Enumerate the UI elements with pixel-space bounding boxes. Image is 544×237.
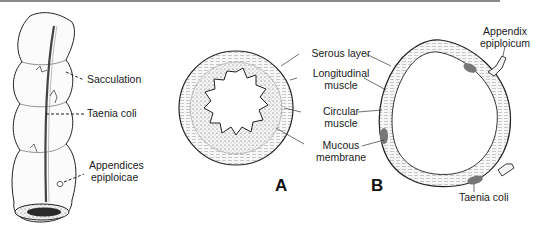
label-circular-1: Circular bbox=[299, 106, 383, 118]
cross-section-b bbox=[379, 40, 514, 187]
panel-label-a: A bbox=[275, 176, 287, 196]
colon-drawing bbox=[12, 13, 76, 222]
label-mucous-1: Mucous bbox=[299, 140, 383, 152]
label-appendix-1: Appendix bbox=[470, 26, 540, 38]
label-longitudinal-1: Longitudinal bbox=[299, 68, 383, 80]
label-appendices-1: Appendices bbox=[89, 160, 144, 172]
label-taenia-coli: Taenia coli bbox=[87, 108, 137, 120]
label-longitudinal-2: muscle bbox=[299, 80, 383, 92]
label-taenia-coli-b: Taenia coli bbox=[459, 192, 509, 204]
label-appendices-2: epiploicae bbox=[91, 172, 138, 184]
panel-label-b: B bbox=[371, 176, 383, 196]
label-sacculation: Sacculation bbox=[87, 74, 141, 86]
label-mucous-2: membrane bbox=[299, 152, 383, 164]
label-serous-layer: Serous layer bbox=[299, 48, 383, 60]
cross-section-a bbox=[179, 51, 293, 165]
label-circular-2: muscle bbox=[299, 118, 383, 130]
label-appendix-2: epiploicum bbox=[470, 38, 540, 50]
